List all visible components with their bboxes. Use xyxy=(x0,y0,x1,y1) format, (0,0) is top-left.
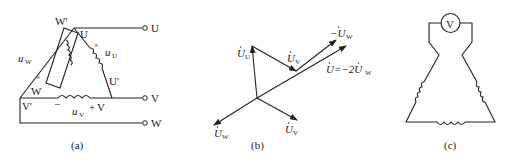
panel-c-circuit xyxy=(406,14,495,125)
terminal-w xyxy=(143,121,148,126)
node-w-prime: W' xyxy=(55,15,67,27)
diagram-canvas: W' W U U' V' + V − × × u W u U u V U V W… xyxy=(0,0,511,163)
svg-text:W: W xyxy=(365,69,372,77)
voltage-uv: u xyxy=(72,105,78,117)
winding-v xyxy=(58,96,90,99)
svg-text:V: V xyxy=(79,111,84,119)
minus-sign: − xyxy=(54,98,60,110)
caption-a: (a) xyxy=(71,139,84,152)
svg-text:V: V xyxy=(97,101,105,113)
phasor-uw xyxy=(214,98,257,125)
terminal-label-w: W xyxy=(151,117,162,129)
node-u: U xyxy=(80,28,88,40)
terminal-v xyxy=(143,96,148,101)
label-sum: U=−2U xyxy=(326,63,363,75)
node-w: W xyxy=(31,85,42,97)
voltmeter-label: V xyxy=(446,18,454,30)
svg-text:W: W xyxy=(25,58,32,66)
svg-text:U: U xyxy=(245,53,250,61)
svg-text:U: U xyxy=(112,52,117,60)
caption-b: (b) xyxy=(251,139,264,152)
cross-w: × xyxy=(36,73,41,82)
svg-text:V: V xyxy=(293,129,298,137)
phasor-uv xyxy=(257,98,297,120)
cross-u: × xyxy=(94,41,99,50)
voltage-uu: u xyxy=(105,46,111,58)
svg-text:W: W xyxy=(346,33,353,41)
phasor-dots xyxy=(217,26,359,127)
voltage-uw: u xyxy=(18,52,24,64)
terminal-label-u: U xyxy=(151,22,159,34)
node-v: + xyxy=(89,101,95,113)
node-v-prime: V' xyxy=(22,100,32,112)
terminal-u xyxy=(143,26,148,31)
caption-c: (c) xyxy=(444,139,457,152)
panel-b-phasor-diagram xyxy=(214,40,346,125)
svg-text:V: V xyxy=(295,58,300,66)
phasor-uu xyxy=(252,46,257,98)
svg-text:W: W xyxy=(222,133,229,141)
label-neg-uw: −U xyxy=(330,27,346,39)
terminal-label-v: V xyxy=(151,92,159,104)
winding-u xyxy=(90,48,103,68)
node-u-prime: U' xyxy=(109,75,119,87)
